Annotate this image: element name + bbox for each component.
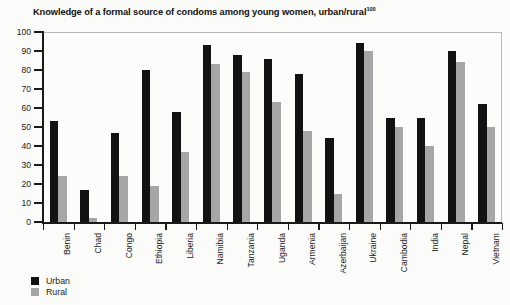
chart-title-superscript: 100 <box>366 6 375 12</box>
bar-urban <box>80 190 89 222</box>
bar-rural <box>395 127 404 222</box>
y-axis-tick <box>34 107 42 108</box>
y-axis-tick-label: 30 <box>0 160 31 170</box>
bar-group <box>448 32 465 222</box>
y-axis-tick-label: 20 <box>0 179 31 189</box>
x-axis-tick <box>196 223 197 230</box>
y-axis-tick <box>34 183 42 184</box>
bar-rural <box>211 64 220 222</box>
y-axis-tick-label: 60 <box>0 103 31 113</box>
x-axis-tick <box>502 223 503 230</box>
x-axis-tick <box>349 223 350 230</box>
y-axis-line <box>42 31 44 223</box>
bar-urban <box>203 45 212 222</box>
bar-rural <box>303 131 312 222</box>
bar-group <box>80 32 97 222</box>
x-axis-category-label: Ethiopia <box>154 233 164 264</box>
y-axis-tick-label: 70 <box>0 84 31 94</box>
bar-group <box>264 32 281 222</box>
x-axis-tick <box>104 223 105 230</box>
x-axis-tick <box>74 223 75 230</box>
x-axis-category-label: Cambodia <box>399 233 409 272</box>
x-axis-category-label: Congo <box>124 233 134 258</box>
bar-rural <box>181 152 190 222</box>
x-axis-category-label: Armenia <box>307 233 317 265</box>
x-axis-line <box>42 222 502 224</box>
bar-group <box>417 32 434 222</box>
bar-group <box>325 32 342 222</box>
x-axis-tick <box>318 223 319 230</box>
bar-urban <box>172 112 181 222</box>
x-axis-tick <box>257 223 258 230</box>
x-axis-tick <box>410 223 411 230</box>
bar-rural <box>272 102 281 222</box>
x-axis-category-label: Uganda <box>277 233 287 263</box>
bar-urban <box>50 121 59 222</box>
x-axis-tick <box>380 223 381 230</box>
x-axis-tick <box>135 223 136 230</box>
y-axis-tick <box>34 69 42 70</box>
y-axis-tick-label: 10 <box>0 198 31 208</box>
bar-urban <box>478 104 487 222</box>
bar-rural <box>334 194 343 223</box>
y-axis-tick <box>34 126 42 127</box>
legend-item: Urban <box>31 275 70 286</box>
legend-item-label: Rural <box>46 287 67 297</box>
y-axis-tick <box>34 164 42 165</box>
bar-group <box>172 32 189 222</box>
bar-group <box>50 32 67 222</box>
bar-rural <box>89 218 98 222</box>
x-axis-category-label: Nepal <box>460 233 470 255</box>
legend-swatch-icon <box>31 288 39 296</box>
bar-rural <box>456 62 465 222</box>
legend-swatch-icon <box>31 277 39 285</box>
x-axis-category-label: Benin <box>62 233 72 255</box>
x-axis-tick <box>165 223 166 230</box>
legend-item-label: Urban <box>46 276 70 286</box>
y-axis-tick-label: 40 <box>0 141 31 151</box>
y-axis-tick-label: 80 <box>0 65 31 75</box>
x-axis-category-label: Ukraine <box>368 233 378 263</box>
y-axis-tick <box>34 202 42 203</box>
chart-legend: UrbanRural <box>31 275 70 297</box>
y-axis-tick-label: 100 <box>0 27 31 37</box>
x-axis-category-label: Tanzania <box>246 233 256 267</box>
x-axis-category-label: Azerbaijan <box>338 233 348 274</box>
bar-urban <box>111 133 120 222</box>
bar-group <box>356 32 373 222</box>
bar-rural <box>425 146 434 222</box>
bar-urban <box>233 55 242 222</box>
bar-group <box>386 32 403 222</box>
legend-item: Rural <box>31 286 70 297</box>
bar-group <box>478 32 495 222</box>
x-axis-category-label: Chad <box>93 233 103 254</box>
bar-rural <box>150 186 159 222</box>
bar-rural <box>58 176 67 222</box>
y-axis-tick-label: 0 <box>0 217 31 227</box>
bar-group <box>295 32 312 222</box>
x-axis-category-label: Vietnam <box>491 233 501 264</box>
x-axis-category-label: Namibia <box>215 233 225 265</box>
bar-rural <box>242 72 251 222</box>
x-axis-category-label: India <box>430 233 440 252</box>
bar-rural <box>364 51 373 222</box>
x-axis-tick <box>471 223 472 230</box>
y-axis-tick-label: 50 <box>0 122 31 132</box>
x-axis-tick <box>43 223 44 230</box>
x-axis-category-label: Liberia <box>185 233 195 259</box>
bar-urban <box>448 51 457 222</box>
y-axis-tick-label: 90 <box>0 46 31 56</box>
bar-urban <box>356 43 365 222</box>
bar-group <box>142 32 159 222</box>
x-axis-tick <box>227 223 228 230</box>
y-axis-tick <box>34 50 42 51</box>
bar-urban <box>325 138 334 222</box>
bar-group <box>233 32 250 222</box>
x-axis-tick <box>288 223 289 230</box>
chart-title-text: Knowledge of a formal source of condoms … <box>33 7 366 17</box>
y-axis-tick <box>34 221 42 222</box>
bar-group <box>111 32 128 222</box>
bar-urban <box>386 118 395 223</box>
bar-urban <box>417 118 426 223</box>
page-title: Knowledge of a formal source of condoms … <box>33 6 375 17</box>
